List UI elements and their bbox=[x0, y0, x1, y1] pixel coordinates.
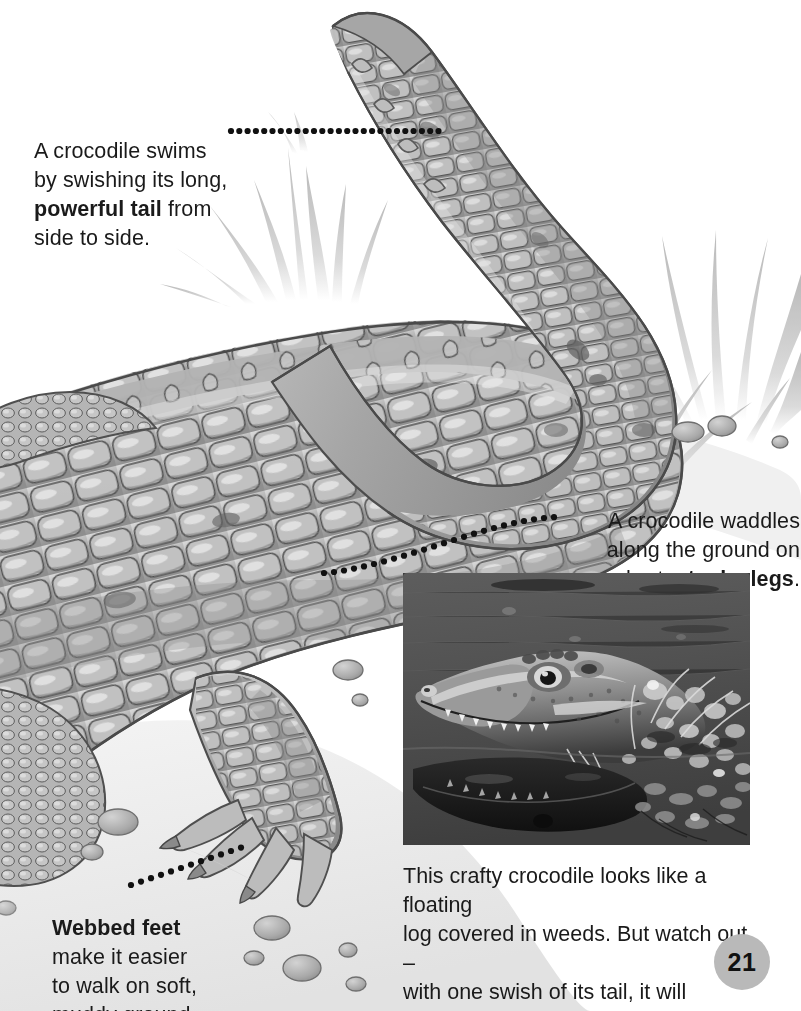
callout-webbed-feet: Webbed feet make it easier to walk on so… bbox=[52, 885, 262, 1011]
crocodile-head-photo bbox=[403, 573, 750, 845]
page-number-badge: 21 bbox=[714, 934, 770, 990]
callout-powerful-tail-text: A crocodile swims by swishing its long, bbox=[34, 139, 227, 192]
book-page: A crocodile swims by swishing its long, … bbox=[0, 0, 801, 1011]
callout-webbed-feet-bold: Webbed feet bbox=[52, 916, 181, 940]
callout-webbed-feet-text: make it easier to walk on soft, muddy gr… bbox=[52, 945, 197, 1011]
callout-powerful-tail-bold: powerful tail bbox=[34, 197, 162, 221]
photo-caption: This crafty crocodile looks like a float… bbox=[403, 862, 753, 1011]
callout-powerful-tail: A crocodile swims by swishing its long, … bbox=[34, 108, 249, 253]
callout-stocky-legs-text-end: . bbox=[794, 567, 800, 591]
page-number: 21 bbox=[728, 948, 757, 977]
